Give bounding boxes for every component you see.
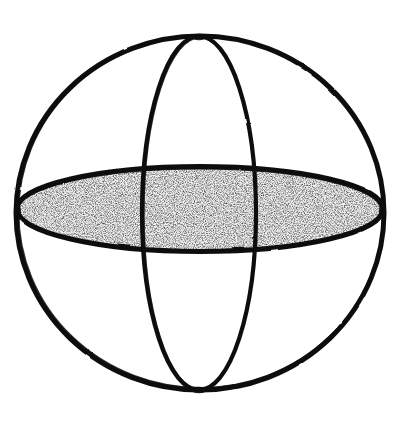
equator-right-vertex: [379, 204, 385, 218]
sphere-diagram: Sphere with equatorial disc and meridian…: [0, 0, 398, 433]
south-pole-junction: [191, 387, 207, 393]
equator-left-vertex: [15, 204, 21, 218]
figure-canvas: Sphere with equatorial disc and meridian…: [0, 0, 398, 433]
north-pole-junction: [191, 34, 207, 40]
